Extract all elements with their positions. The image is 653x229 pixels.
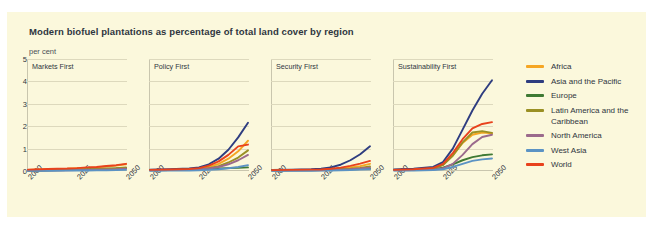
legend-swatch-icon bbox=[526, 80, 544, 83]
panel-title: Sustainability First bbox=[398, 62, 456, 71]
chart-panel: Policy First bbox=[149, 59, 249, 171]
legend-item-label: Europe bbox=[551, 90, 577, 101]
legend-swatch-icon bbox=[526, 65, 544, 68]
legend-swatch-icon bbox=[526, 94, 544, 97]
legend-item-label: North America bbox=[551, 130, 602, 141]
legend-item[interactable]: West Asia bbox=[526, 145, 651, 156]
legend-item-label: Asia and the Pacific bbox=[551, 76, 621, 87]
legend-item-label: World bbox=[551, 159, 572, 170]
chart-legend: AfricaAsia and the PacificEuropeLatin Am… bbox=[526, 61, 651, 174]
legend-item[interactable]: World bbox=[526, 159, 651, 170]
legend-item-label: Latin America and the Caribbean bbox=[551, 105, 651, 127]
legend-item[interactable]: Asia and the Pacific bbox=[526, 76, 651, 87]
legend-swatch-icon bbox=[526, 149, 544, 152]
chart-panel: Security First bbox=[271, 59, 371, 171]
y-axis-tick-label: 0 bbox=[11, 167, 27, 176]
series-line bbox=[150, 145, 248, 170]
legend-item[interactable]: Latin America and the Caribbean bbox=[526, 105, 651, 127]
y-axis: 012345 bbox=[7, 59, 27, 171]
panel-title: Markets First bbox=[32, 62, 74, 71]
series-line bbox=[394, 122, 492, 170]
series-line bbox=[150, 141, 248, 170]
series-lines bbox=[27, 59, 127, 171]
legend-item-label: West Asia bbox=[551, 145, 586, 156]
chart-panel: Sustainability First bbox=[393, 59, 493, 171]
y-axis-tick-label: 3 bbox=[11, 99, 27, 108]
chart-card: Modern biofuel plantations as percentage… bbox=[7, 12, 646, 217]
legend-item[interactable]: Africa bbox=[526, 61, 651, 72]
legend-swatch-icon bbox=[526, 134, 544, 137]
panel-title: Security First bbox=[276, 62, 318, 71]
series-lines bbox=[393, 59, 493, 171]
y-axis-tick-label: 5 bbox=[11, 55, 27, 64]
panel-title: Policy First bbox=[154, 62, 189, 71]
chart-panel: Markets First bbox=[27, 59, 127, 171]
legend-swatch-icon bbox=[526, 163, 544, 166]
y-axis-tick-label: 1 bbox=[11, 144, 27, 153]
legend-item-label: Africa bbox=[551, 61, 571, 72]
series-lines bbox=[271, 59, 371, 171]
legend-swatch-icon bbox=[526, 109, 544, 112]
axis-units-label: per cent bbox=[29, 47, 56, 56]
legend-item[interactable]: Europe bbox=[526, 90, 651, 101]
y-axis-tick-label: 2 bbox=[11, 122, 27, 131]
legend-item[interactable]: North America bbox=[526, 130, 651, 141]
series-lines bbox=[149, 59, 249, 171]
y-axis-tick-label: 4 bbox=[11, 77, 27, 86]
chart-title: Modern biofuel plantations as percentage… bbox=[29, 26, 354, 37]
